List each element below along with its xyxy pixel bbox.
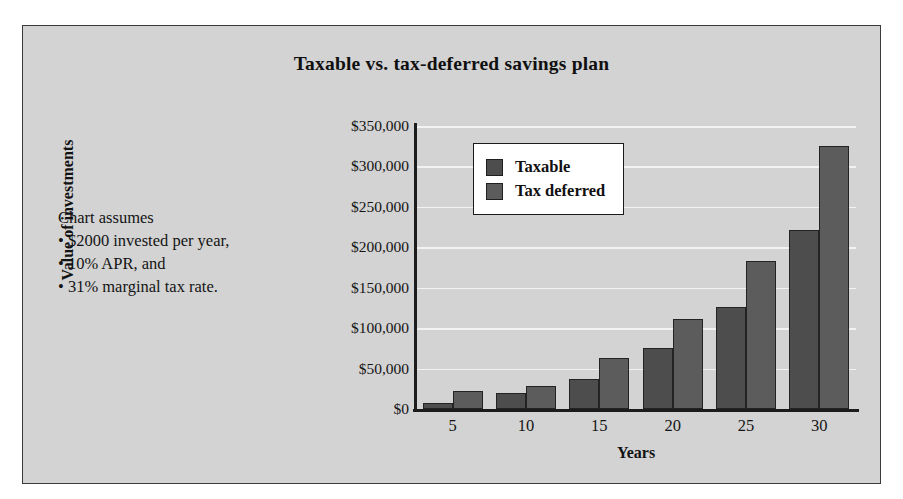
bar-taxable-year-30 — [789, 230, 819, 410]
y-axis-title: Value of investments — [59, 110, 77, 310]
legend-label-taxable: Taxable — [515, 157, 570, 177]
legend-entry-taxable: Taxable — [486, 157, 605, 177]
y-axis-tick-label: $150,000 — [351, 279, 409, 297]
x-axis-tick-label: 25 — [738, 416, 755, 436]
bar-taxable-year-5 — [423, 403, 453, 409]
y-axis-tick-label: $250,000 — [351, 198, 409, 216]
y-axis-tick-label: $300,000 — [351, 157, 409, 175]
bar-tax-deferred-year-25 — [746, 261, 776, 409]
x-axis-tick-label: 20 — [664, 416, 681, 436]
x-axis-tick-label: 15 — [591, 416, 608, 436]
x-axis-title: Years — [416, 444, 856, 462]
y-axis-tick-label: $350,000 — [351, 117, 409, 135]
bar-taxable-year-10 — [496, 393, 526, 409]
bar-tax-deferred-year-30 — [819, 146, 849, 409]
bar-tax-deferred-year-20 — [673, 319, 703, 409]
x-axis-tick-label: 5 — [449, 416, 457, 436]
y-axis-tick-label: $0 — [394, 400, 410, 418]
legend-label-tax-deferred: Tax deferred — [515, 181, 605, 201]
plot-wrapper: Value of investments $0$50,000$100,000$1… — [23, 26, 880, 483]
bar-taxable-year-15 — [569, 379, 599, 409]
bar-tax-deferred-year-5 — [453, 391, 483, 409]
y-axis-tick-label: $50,000 — [359, 360, 409, 378]
y-axis-tick-label: $200,000 — [351, 238, 409, 256]
x-axis-tick-label: 10 — [518, 416, 535, 436]
x-axis-line — [413, 409, 859, 412]
legend-entry-tax-deferred: Tax deferred — [486, 181, 605, 201]
bar-tax-deferred-year-10 — [526, 386, 556, 409]
chart-legend: Taxable Tax deferred — [473, 143, 624, 215]
bar-taxable-year-25 — [716, 307, 746, 409]
gridline — [416, 126, 856, 128]
chart-panel: Taxable vs. tax-deferred savings plan Ch… — [22, 25, 881, 484]
legend-swatch-icon-taxable — [486, 159, 503, 176]
bar-taxable-year-20 — [643, 348, 673, 409]
screenshot-root: Taxable vs. tax-deferred savings plan Ch… — [0, 0, 903, 499]
x-axis-tick-labels: 51015202530 — [416, 416, 856, 440]
bar-tax-deferred-year-15 — [599, 358, 629, 409]
y-axis-tick-label: $100,000 — [351, 319, 409, 337]
x-axis-tick-label: 30 — [811, 416, 828, 436]
legend-swatch-icon-tax-deferred — [486, 183, 503, 200]
y-axis-line — [414, 123, 417, 412]
